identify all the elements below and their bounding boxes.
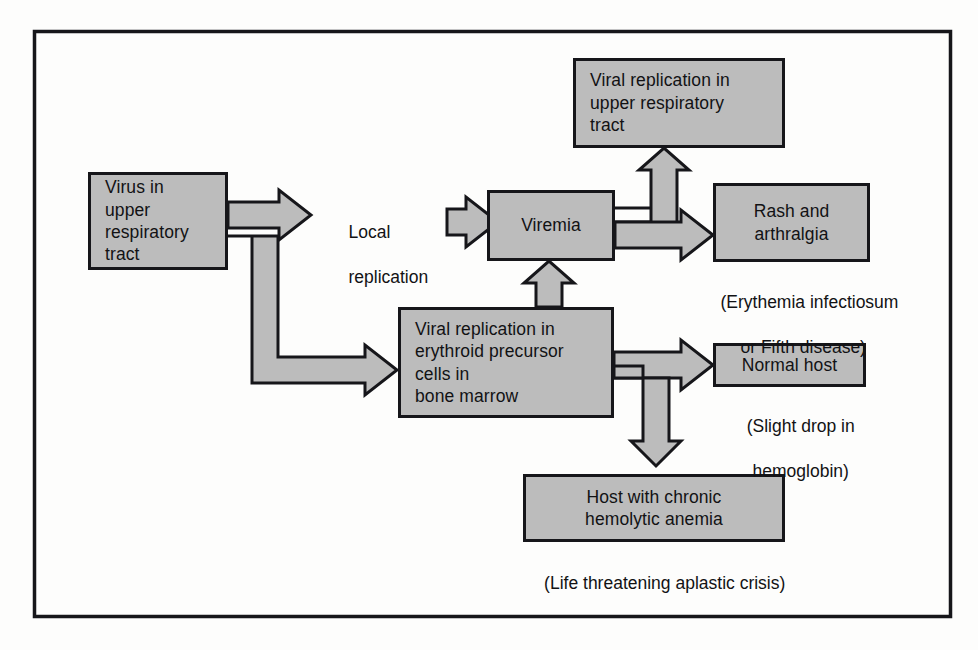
- node-line: arthralgia: [755, 223, 829, 245]
- node-viral-replication-upper-respiratory-tract[interactable]: Viral replication in upper respiratory t…: [573, 58, 785, 148]
- node-line: respiratory: [105, 221, 189, 243]
- node-line: tract: [105, 243, 140, 265]
- node-line: upper respiratory: [590, 92, 724, 114]
- arrow-bone-marrow-to-viremia: [524, 261, 574, 307]
- node-line: cells in: [415, 363, 469, 385]
- figure-canvas: Virus in upper respiratory tract Viral r…: [0, 0, 978, 650]
- node-line: hemolytic anemia: [585, 508, 723, 530]
- node-rash-and-arthralgia[interactable]: Rash and arthralgia: [713, 183, 870, 262]
- node-line: bone marrow: [415, 385, 518, 407]
- node-line: erythroid precursor: [415, 340, 564, 362]
- label-life-threatening-aplastic-crisis-note: (Life threatening aplastic crisis): [495, 549, 815, 617]
- node-line: tract: [590, 114, 625, 136]
- label-line: Local: [348, 222, 390, 242]
- node-line: Rash and: [754, 200, 830, 222]
- node-viremia[interactable]: Viremia: [487, 190, 615, 261]
- node-viral-replication-erythroid-precursor-cells[interactable]: Viral replication in erythroid precursor…: [398, 307, 614, 418]
- label-line: (Slight drop in: [747, 416, 855, 436]
- label-line: replication: [348, 267, 428, 287]
- node-line: Host with chronic: [587, 486, 722, 508]
- arrow-virus-to-local-replication: [228, 190, 311, 240]
- node-line: upper: [105, 199, 150, 221]
- node-virus-in-upper-respiratory-tract[interactable]: Virus in upper respiratory tract: [88, 172, 228, 270]
- node-line: Viremia: [521, 214, 581, 236]
- label-line: hemoglobin): [753, 461, 849, 481]
- label-line: (Life threatening aplastic crisis): [544, 573, 785, 593]
- label-line: or Fifth disease): [740, 337, 865, 357]
- label-local-replication: Local replication: [329, 198, 428, 312]
- label-slight-drop-hemoglobin-note: (Slight drop in hemoglobin): [711, 392, 871, 506]
- node-line: Virus in: [105, 176, 164, 198]
- label-erythemia-infectiosum-note: (Erythemia infectiosum or Fifth disease): [701, 268, 886, 382]
- arrow-bone-marrow-to-chronic-host: [614, 366, 681, 466]
- label-line: (Erythemia infectiosum: [720, 292, 898, 312]
- node-line: Viral replication in: [415, 318, 555, 340]
- node-line: Viral replication in: [590, 69, 730, 91]
